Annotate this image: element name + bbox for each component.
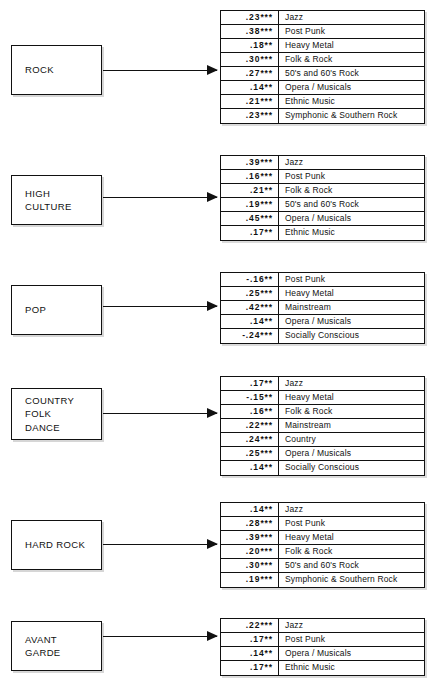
arrow-head-icon — [207, 408, 218, 418]
coefficient-cell: .17** — [221, 633, 279, 646]
table-row: .19***Symphonic & Southern Rock — [221, 573, 424, 587]
coefficient-cell: -.16** — [221, 273, 279, 286]
genre-cell: Post Punk — [279, 517, 424, 530]
arrow-shaft-icon — [103, 197, 217, 198]
source-node-high-culture[interactable]: HIGH CULTURE — [11, 175, 102, 225]
genre-cell: Heavy Metal — [279, 391, 424, 404]
table-row: .17**Post Punk — [221, 633, 424, 647]
source-node-avant-garde[interactable]: AVANT GARDE — [11, 621, 102, 671]
arrow-shaft-icon — [103, 306, 217, 307]
genre-cell: Jazz — [279, 619, 424, 632]
coefficient-cell: .45*** — [221, 212, 279, 225]
coefficient-cell: .16*** — [221, 170, 279, 183]
source-node-label: AVANT GARDE — [25, 633, 101, 660]
arrow-shaft-icon — [103, 544, 217, 545]
coefficient-cell: .42*** — [221, 301, 279, 314]
outcome-table-country-folk-dance: .17**Jazz-.15**Heavy Metal.16**Folk & Ro… — [220, 376, 425, 476]
genre-cell: Jazz — [279, 11, 424, 24]
table-row: .30***Folk & Rock — [221, 53, 424, 67]
genre-cell: Opera / Musicals — [279, 647, 424, 660]
source-node-label: ROCK — [25, 63, 101, 77]
table-row: .18**Heavy Metal — [221, 39, 424, 53]
coefficient-cell: .16** — [221, 405, 279, 418]
coefficient-cell: .25*** — [221, 447, 279, 460]
table-row: .39***Jazz — [221, 156, 424, 170]
source-node-country-folk-dance[interactable]: COUNTRY FOLK DANCE — [11, 388, 102, 440]
coefficient-cell: .14** — [221, 81, 279, 94]
genre-cell: Mainstream — [279, 301, 424, 314]
arrow-head-icon — [207, 65, 218, 75]
coefficient-cell: .27*** — [221, 67, 279, 80]
genre-cell: Symphonic & Southern Rock — [279, 573, 424, 587]
coefficient-cell: .17** — [221, 377, 279, 390]
coefficient-cell: .14** — [221, 647, 279, 660]
source-node-label: COUNTRY FOLK DANCE — [25, 394, 101, 435]
coefficient-cell: .24*** — [221, 433, 279, 446]
genre-cell: Mainstream — [279, 419, 424, 432]
genre-cell: Socially Conscious — [279, 329, 424, 343]
genre-cell: Ethnic Music — [279, 226, 424, 240]
arrow-country-folk-dance — [103, 407, 217, 419]
genre-cell: Heavy Metal — [279, 531, 424, 544]
coefficient-cell: -.24*** — [221, 329, 279, 343]
source-node-label: HIGH CULTURE — [25, 187, 101, 214]
arrow-head-icon — [207, 631, 218, 641]
table-row: .21***Ethnic Music — [221, 95, 424, 109]
genre-cell: Opera / Musicals — [279, 315, 424, 328]
source-node-label: POP — [25, 303, 101, 317]
table-row: .38***Post Punk — [221, 25, 424, 39]
path-diagram: ROCK.23***Jazz.38***Post Punk.18**Heavy … — [0, 0, 439, 689]
coefficient-cell: .14** — [221, 503, 279, 516]
coefficient-cell: .17** — [221, 226, 279, 240]
table-row: .25***Opera / Musicals — [221, 447, 424, 461]
arrow-head-icon — [207, 539, 218, 549]
coefficient-cell: .20*** — [221, 545, 279, 558]
table-row: .27***50's and 60's Rock — [221, 67, 424, 81]
arrow-head-icon — [207, 192, 218, 202]
table-row: .17**Ethnic Music — [221, 226, 424, 240]
genre-cell: Ethnic Music — [279, 661, 424, 675]
coefficient-cell: .28*** — [221, 517, 279, 530]
table-row: -.24***Socially Conscious — [221, 329, 424, 343]
table-row: .16***Post Punk — [221, 170, 424, 184]
outcome-table-rock: .23***Jazz.38***Post Punk.18**Heavy Meta… — [220, 10, 425, 124]
coefficient-cell: .30*** — [221, 53, 279, 66]
source-node-hard-rock[interactable]: HARD ROCK — [11, 520, 102, 570]
table-row: .20***Folk & Rock — [221, 545, 424, 559]
coefficient-cell: .17** — [221, 661, 279, 675]
table-row: .22***Jazz — [221, 619, 424, 633]
coefficient-cell: .21*** — [221, 95, 279, 108]
table-row: .24***Country — [221, 433, 424, 447]
table-row: .17**Jazz — [221, 377, 424, 391]
coefficient-cell: .22*** — [221, 619, 279, 632]
coefficient-cell: .14** — [221, 315, 279, 328]
arrow-head-icon — [207, 301, 218, 311]
table-row: .14**Socially Conscious — [221, 461, 424, 475]
arrow-hard-rock — [103, 538, 217, 550]
arrow-avant-garde — [103, 630, 217, 642]
coefficient-cell: .23*** — [221, 11, 279, 24]
genre-cell: Folk & Rock — [279, 53, 424, 66]
outcome-table-pop: -.16**Post Punk.25***Heavy Metal.42***Ma… — [220, 272, 425, 344]
outcome-table-avant-garde: .22***Jazz.17**Post Punk.14**Opera / Mus… — [220, 618, 425, 676]
table-row: -.15**Heavy Metal — [221, 391, 424, 405]
genre-cell: Socially Conscious — [279, 461, 424, 475]
table-row: .45***Opera / Musicals — [221, 212, 424, 226]
table-row: .14**Opera / Musicals — [221, 647, 424, 661]
genre-cell: 50's and 60's Rock — [279, 198, 424, 211]
genre-cell: 50's and 60's Rock — [279, 67, 424, 80]
table-row: .19***50's and 60's Rock — [221, 198, 424, 212]
coefficient-cell: .19*** — [221, 573, 279, 587]
coefficient-cell: .38*** — [221, 25, 279, 38]
table-row: .16**Folk & Rock — [221, 405, 424, 419]
table-row: -.16**Post Punk — [221, 273, 424, 287]
table-row: .23***Symphonic & Southern Rock — [221, 109, 424, 123]
source-node-rock[interactable]: ROCK — [11, 45, 102, 95]
source-node-pop[interactable]: POP — [11, 285, 102, 335]
coefficient-cell: .18** — [221, 39, 279, 52]
coefficient-cell: .22*** — [221, 419, 279, 432]
genre-cell: Post Punk — [279, 170, 424, 183]
table-row: .14**Opera / Musicals — [221, 315, 424, 329]
genre-cell: Heavy Metal — [279, 287, 424, 300]
coefficient-cell: .14** — [221, 461, 279, 475]
